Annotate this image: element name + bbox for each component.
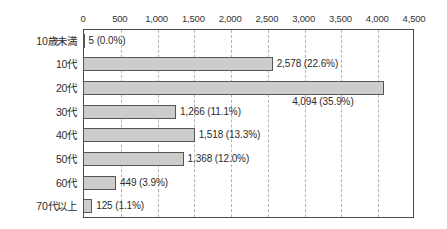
y-axis-category-labels: 10歳未満10代20代30代40代50代60代70代以上 [0, 29, 80, 218]
x-tick-label: 2,000 [219, 13, 242, 25]
bar-value-label: 449 (3.9%) [120, 177, 168, 189]
bar [83, 128, 195, 142]
bar [83, 152, 184, 166]
y-category-label: 20代 [56, 82, 77, 94]
y-category-label: 70代以上 [36, 200, 77, 212]
y-category-label: 50代 [56, 153, 77, 165]
x-axis-tick-labels: 05001,0001,5002,0002,5003,0003,5004,0004… [0, 13, 447, 27]
x-tick-label: 3,000 [292, 13, 315, 25]
bar-value-label: 4,094 (35.9%) [292, 96, 354, 108]
bar-value-label: 125 (1.1%) [96, 200, 144, 212]
bar-value-label: 1,368 (12.0%) [188, 153, 250, 165]
bar-value-label: 1,266 (11.1%) [180, 106, 241, 118]
x-tick-label: 4,000 [366, 13, 389, 25]
x-tick-label: 2,500 [255, 13, 278, 25]
y-category-label: 10代 [56, 58, 77, 70]
y-category-label: 60代 [56, 177, 77, 189]
x-tick-label: 1,000 [145, 13, 168, 25]
x-tick-label: 0 [80, 13, 85, 25]
bar-value-label: 5 (0.0%) [89, 35, 126, 47]
x-tick-label: 3,500 [329, 13, 352, 25]
bar [83, 199, 92, 213]
bar [83, 105, 176, 119]
x-tick-label: 1,500 [182, 13, 205, 25]
y-category-label: 40代 [56, 129, 77, 141]
bar [83, 57, 273, 71]
y-category-label: 30代 [56, 106, 77, 118]
bar [83, 34, 85, 48]
x-tick-label: 4,500 [403, 13, 426, 25]
bar [83, 176, 116, 190]
bar-chart: 05001,0001,5002,0002,5003,0003,5004,0004… [0, 0, 447, 229]
bar [83, 81, 384, 95]
bars-layer: 5 (0.0%)2,578 (22.6%)4,094 (35.9%)1,266 … [83, 29, 414, 218]
x-tick-label: 500 [112, 13, 127, 25]
bar-value-label: 2,578 (22.6%) [277, 58, 339, 70]
bar-value-label: 1,518 (13.3%) [199, 129, 261, 141]
y-category-label: 10歳未満 [36, 35, 77, 47]
